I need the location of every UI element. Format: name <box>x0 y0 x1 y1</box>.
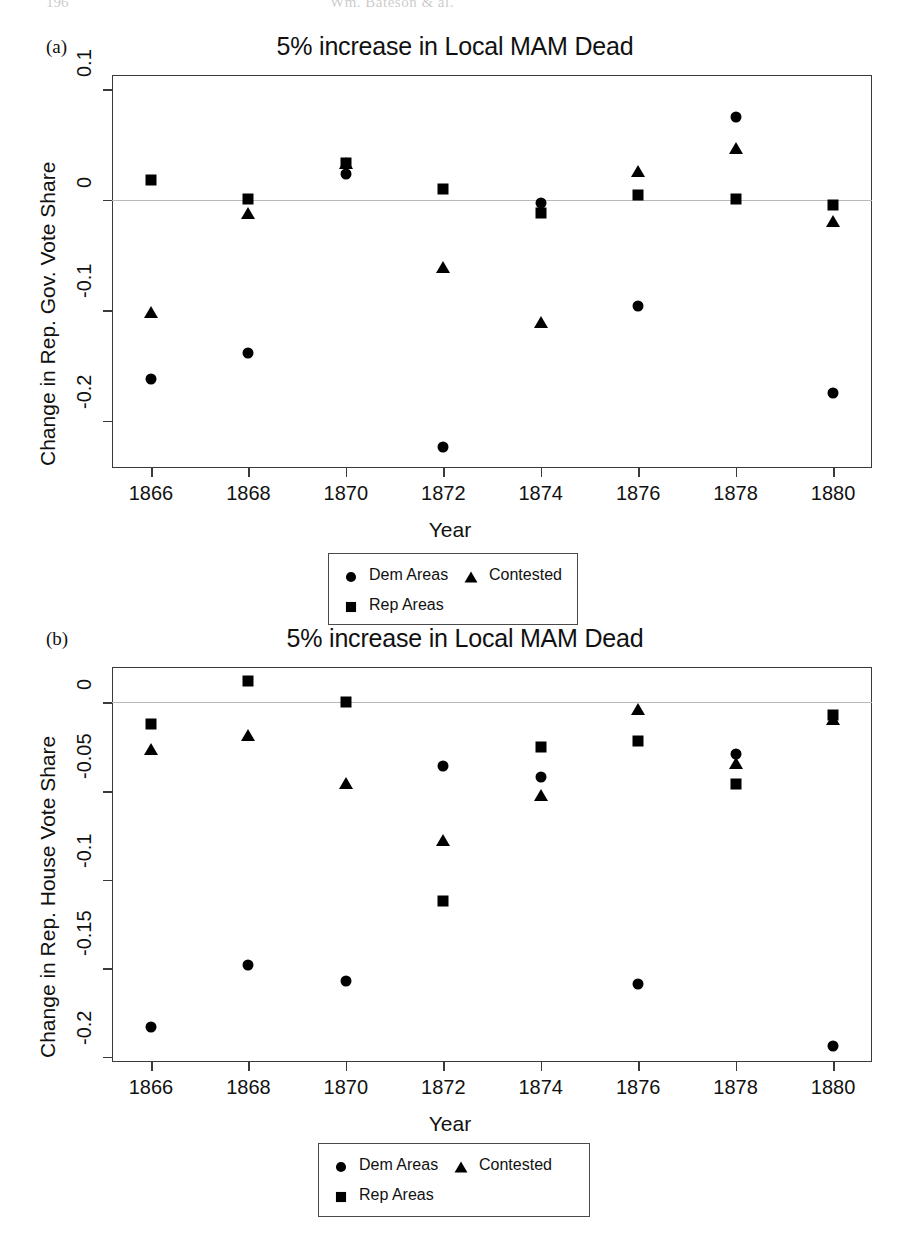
x-axis-tick <box>833 1062 835 1071</box>
data-point-square <box>145 718 156 729</box>
x-axis-tick-label: 1880 <box>811 482 856 505</box>
x-axis-tick-label: 1870 <box>324 482 369 505</box>
x-axis-tick <box>638 468 640 477</box>
page-header: 196 Wm. Bateson & al. <box>0 0 900 16</box>
panel-b-plot-area <box>112 667 872 1062</box>
panel-a-plot-area <box>112 75 872 468</box>
x-axis-tick <box>346 1062 348 1071</box>
data-point-triangle <box>826 215 840 227</box>
y-axis-tick <box>103 968 112 970</box>
data-point-triangle <box>631 703 645 715</box>
triangle-marker-icon <box>455 1161 468 1172</box>
data-point-square <box>828 200 839 211</box>
y-axis-tick <box>103 702 112 704</box>
data-point-circle <box>730 111 741 122</box>
x-axis-tick <box>833 468 835 477</box>
y-axis-tick <box>103 880 112 882</box>
x-axis-tick-label: 1874 <box>518 1076 563 1099</box>
x-axis-tick <box>638 1062 640 1071</box>
x-axis-tick-label: 1872 <box>421 482 466 505</box>
data-point-square <box>340 697 351 708</box>
x-axis-tick <box>346 468 348 477</box>
data-point-square <box>633 190 644 201</box>
data-point-square <box>535 207 546 218</box>
panel-b-title: 5% increase in Local MAM Dead <box>0 624 900 653</box>
data-point-triangle <box>534 316 548 328</box>
y-axis-tick <box>103 1057 112 1059</box>
data-point-square <box>633 736 644 747</box>
x-axis-tick-label: 1866 <box>129 482 174 505</box>
data-point-triangle <box>144 743 158 755</box>
data-point-circle <box>340 975 351 986</box>
data-point-triangle <box>729 142 743 154</box>
data-point-square <box>535 741 546 752</box>
data-point-circle <box>438 442 449 453</box>
x-axis-tick <box>736 1062 738 1071</box>
square-marker-icon <box>346 602 356 612</box>
data-point-triangle <box>339 777 353 789</box>
circle-marker-icon <box>336 1162 346 1172</box>
triangle-marker-icon <box>465 571 478 582</box>
legend-label: Dem Areas <box>359 1156 438 1174</box>
x-axis-tick <box>151 1062 153 1071</box>
data-point-triangle <box>436 834 450 846</box>
x-axis-tick <box>248 468 250 477</box>
x-axis-tick <box>151 468 153 477</box>
data-point-circle <box>633 979 644 990</box>
data-point-circle <box>633 300 644 311</box>
data-point-square <box>438 895 449 906</box>
running-header-title: Wm. Bateson & al. <box>330 0 454 11</box>
panel-b-y-axis-label: Change in Rep. House Vote Share <box>36 736 60 1058</box>
zero-reference-line <box>112 702 872 703</box>
zero-reference-line <box>112 200 872 201</box>
data-point-square <box>145 174 156 185</box>
panel-a: (a) 5% increase in Local MAM Dead Change… <box>0 36 900 636</box>
data-point-circle <box>828 387 839 398</box>
legend-label: Contested <box>479 1156 552 1174</box>
panel-a-title: 5% increase in Local MAM Dead <box>0 32 900 61</box>
y-axis-tick <box>103 421 112 423</box>
panel-a-y-axis-label: Change in Rep. Gov. Vote Share <box>36 162 60 466</box>
legend-label: Rep Areas <box>369 596 444 614</box>
y-axis-tick <box>103 791 112 793</box>
x-axis-tick-label: 1878 <box>713 482 758 505</box>
x-axis-tick-label: 1866 <box>129 1076 174 1099</box>
data-point-circle <box>828 1041 839 1052</box>
legend-label: Dem Areas <box>369 566 448 584</box>
data-point-circle <box>438 761 449 772</box>
x-axis-tick <box>248 1062 250 1071</box>
data-point-triangle <box>534 789 548 801</box>
y-axis-tick <box>103 89 112 91</box>
x-axis-tick <box>736 468 738 477</box>
data-point-circle <box>243 348 254 359</box>
data-point-square <box>438 183 449 194</box>
data-point-triangle <box>241 729 255 741</box>
data-point-circle <box>145 373 156 384</box>
data-point-square <box>340 158 351 169</box>
data-point-circle <box>535 771 546 782</box>
legend-label: Contested <box>489 566 562 584</box>
page-folio-number: 196 <box>46 0 69 11</box>
data-point-triangle <box>729 757 743 769</box>
x-axis-tick-label: 1872 <box>421 1076 466 1099</box>
data-point-triangle <box>144 306 158 318</box>
data-point-circle <box>340 169 351 180</box>
panel-b-x-axis-label: Year <box>0 1112 900 1136</box>
x-axis-tick <box>541 468 543 477</box>
y-axis-tick <box>103 310 112 312</box>
x-axis-tick-label: 1876 <box>616 482 661 505</box>
data-point-circle <box>243 959 254 970</box>
data-point-triangle <box>631 165 645 177</box>
x-axis-tick <box>541 1062 543 1071</box>
x-axis-tick-label: 1874 <box>518 482 563 505</box>
x-axis-tick-label: 1880 <box>811 1076 856 1099</box>
data-point-triangle <box>241 207 255 219</box>
panel-a-legend: Dem AreasContestedRep Areas <box>328 553 578 625</box>
panel-b-legend: Dem AreasContestedRep Areas <box>318 1143 590 1217</box>
data-point-square <box>828 709 839 720</box>
x-axis-tick-label: 1878 <box>713 1076 758 1099</box>
x-axis-tick-label: 1870 <box>324 1076 369 1099</box>
x-axis-tick <box>443 468 445 477</box>
data-point-square <box>730 778 741 789</box>
data-point-square <box>243 676 254 687</box>
